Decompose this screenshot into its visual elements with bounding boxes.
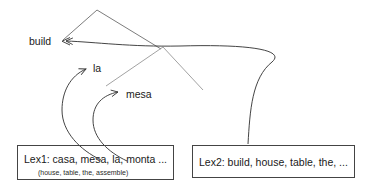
tree-edge-inner-right: [163, 47, 203, 90]
lexicon-sublabel-lex1: (house, table, the, assemble): [38, 169, 128, 176]
tree-edge-apex-right: [97, 10, 161, 49]
tree-edge-apex-left: [63, 10, 97, 40]
arrow-lex2-to-build: [66, 41, 275, 144]
node-label-la: la: [93, 63, 101, 74]
tree-edge-inner-left: [106, 47, 163, 86]
node-label-build: build: [29, 36, 51, 47]
lexicon-label-lex2: Lex2: build, house, table, the, ...: [199, 157, 348, 168]
lexicon-label-lex1: Lex1: casa, mesa, la, monta ...: [24, 154, 167, 165]
node-label-mesa: mesa: [126, 89, 152, 100]
lexicon-mapping-diagram: build la mesa Lex1: casa, mesa, la, mont…: [0, 0, 372, 189]
